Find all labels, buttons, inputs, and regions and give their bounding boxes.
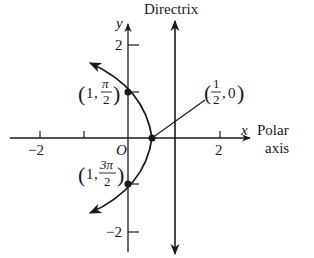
svg-text:π: π xyxy=(102,76,109,91)
x-tick-label-neg2: −2 xyxy=(28,142,44,158)
y-axis-label: y xyxy=(114,15,123,31)
svg-text:): ) xyxy=(237,80,244,105)
svg-text:,: , xyxy=(94,166,98,182)
svg-text:,: , xyxy=(222,85,226,101)
svg-text:): ) xyxy=(117,162,124,187)
vertex-leader-line xyxy=(152,100,205,138)
svg-text:(: ( xyxy=(204,80,211,105)
y-tick-label-neg2: −2 xyxy=(106,224,122,240)
label-point-1-pi-over-2: ( 1 , π 2 ) xyxy=(78,76,120,107)
point-vertex xyxy=(149,135,156,142)
point-1-pi-over-2 xyxy=(125,89,132,96)
polar-axis-label-line2: axis xyxy=(265,140,289,156)
svg-text:2: 2 xyxy=(104,174,111,189)
label-point-1-3pi-over-2: ( 1 , 3π 2 ) xyxy=(78,157,124,189)
directrix-label: Directrix xyxy=(144,1,199,17)
svg-text:1: 1 xyxy=(86,166,94,182)
svg-text:(: ( xyxy=(78,162,85,187)
svg-text:): ) xyxy=(113,81,120,106)
label-point-vertex: ( 1 2 , 0 ) xyxy=(204,76,244,107)
x-axis-label: x xyxy=(240,122,248,138)
point-1-3pi-over-2 xyxy=(125,181,132,188)
svg-text:(: ( xyxy=(78,81,85,106)
origin-label: O xyxy=(116,142,127,158)
svg-text:,: , xyxy=(94,85,98,101)
svg-text:1: 1 xyxy=(213,76,220,91)
svg-text:0: 0 xyxy=(228,85,236,101)
svg-text:2: 2 xyxy=(213,92,220,107)
svg-text:3π: 3π xyxy=(99,157,114,172)
y-tick-label-2: 2 xyxy=(115,37,123,53)
x-tick-label-2: 2 xyxy=(215,142,223,158)
polar-axis-label-line1: Polar xyxy=(257,122,289,138)
polar-parabola-diagram: Directrix y x Polar axis O −2 2 2 −2 ( 1… xyxy=(0,0,314,258)
svg-text:1: 1 xyxy=(86,85,94,101)
svg-text:2: 2 xyxy=(103,92,110,107)
